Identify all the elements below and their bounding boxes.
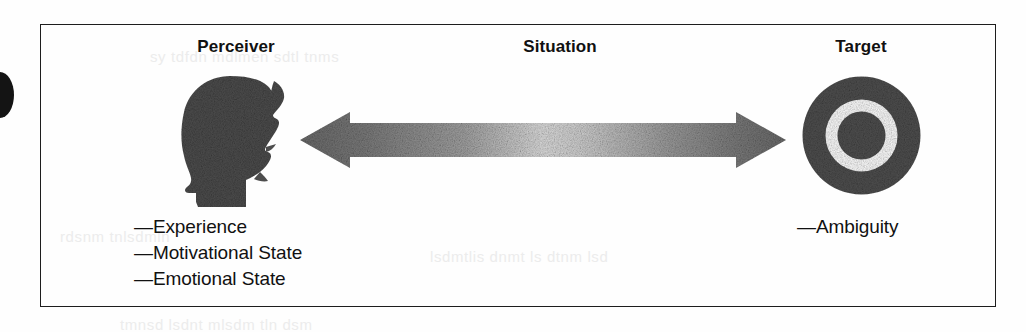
list-item: —Ambiguity — [797, 214, 898, 240]
head-silhouette-icon — [178, 74, 293, 209]
bullseye-target-icon — [801, 75, 922, 196]
list-item: —Experience — [134, 214, 302, 240]
target-heading: Target — [835, 37, 886, 57]
page-edge-artifact — [0, 72, 14, 118]
double-headed-arrow-icon — [298, 104, 788, 176]
perceiver-heading: Perceiver — [197, 37, 274, 57]
perceiver-attribute-list: —Experience —Motivational State —Emotion… — [134, 214, 302, 292]
list-item: —Emotional State — [134, 266, 302, 292]
situation-heading: Situation — [523, 37, 597, 57]
scan-showthrough-text: tmnsd lsdnt mlsdm tln dsm — [120, 316, 313, 332]
figure-page: sy tdfdn mdlmen sdtl tnms rdsnm tnlsdmln… — [0, 0, 1026, 332]
list-item: —Motivational State — [134, 240, 302, 266]
target-attribute-list: —Ambiguity — [797, 214, 898, 240]
